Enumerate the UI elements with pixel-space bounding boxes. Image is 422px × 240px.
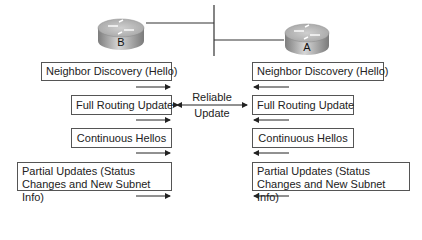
router-b-label: B	[114, 36, 128, 49]
left-step-neighbor-discovery: Neighbor Discovery (Hello)	[41, 62, 172, 81]
right-step-continuous-hellos: Continuous Hellos	[252, 128, 354, 148]
reliable-update-label-line1: Reliable	[186, 91, 238, 104]
left-step-partial-updates: Partial Updates (Status Changes and New …	[17, 162, 172, 191]
right-step-partial-updates: Partial Updates (Status Changes and New …	[252, 162, 410, 191]
right-step-full-routing-update: Full Routing Update	[252, 95, 354, 115]
reliable-update-label-line2: Update	[186, 107, 238, 120]
right-step-neighbor-discovery: Neighbor Discovery (Hello)	[252, 62, 384, 81]
left-step-full-routing-update: Full Routing Update	[71, 95, 172, 115]
router-a-label: A	[300, 41, 314, 54]
left-step-continuous-hellos: Continuous Hellos	[71, 128, 172, 148]
